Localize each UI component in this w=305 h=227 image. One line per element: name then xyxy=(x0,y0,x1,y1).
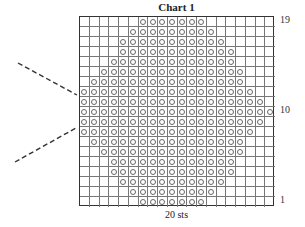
circle-stitch-icon xyxy=(150,49,156,55)
chart-cell xyxy=(207,177,217,187)
chart-cell xyxy=(256,17,266,27)
chart-cell xyxy=(226,27,236,37)
circle-stitch-icon xyxy=(198,119,204,125)
chart-cell xyxy=(256,177,266,187)
chart-cell xyxy=(100,127,110,137)
chart-cell xyxy=(197,67,207,77)
circle-stitch-icon xyxy=(159,29,165,35)
chart-cell xyxy=(168,177,178,187)
circle-stitch-icon xyxy=(101,139,107,145)
circle-stitch-icon xyxy=(169,39,175,45)
circle-stitch-icon xyxy=(150,199,156,205)
chart-cell xyxy=(226,47,236,57)
chart-cell xyxy=(139,167,149,177)
circle-stitch-icon xyxy=(140,149,146,155)
circle-stitch-icon xyxy=(130,49,136,55)
circle-stitch-icon xyxy=(228,169,234,175)
chart-cell xyxy=(139,77,149,87)
chart-cell xyxy=(187,17,197,27)
chart-cell xyxy=(148,27,158,37)
chart-cell xyxy=(139,197,149,207)
circle-stitch-icon xyxy=(237,89,243,95)
chart-cell xyxy=(168,37,178,47)
chart-cell xyxy=(256,47,266,57)
chart-cell xyxy=(246,37,256,47)
chart-cell xyxy=(187,67,197,77)
chart-cell xyxy=(256,37,266,47)
chart-cell xyxy=(158,47,168,57)
chart-cell xyxy=(90,177,100,187)
chart-cell xyxy=(148,47,158,57)
circle-stitch-icon xyxy=(81,109,87,115)
chart-cell xyxy=(119,57,129,67)
chart-cell xyxy=(197,37,207,47)
chart-cell xyxy=(80,137,90,147)
circle-stitch-icon xyxy=(120,179,126,185)
chart-cell xyxy=(265,127,275,137)
circle-stitch-icon xyxy=(198,199,204,205)
chart-cell xyxy=(256,167,266,177)
circle-stitch-icon xyxy=(218,139,224,145)
circle-stitch-icon xyxy=(179,149,185,155)
chart-cell xyxy=(246,197,256,207)
chart-cell xyxy=(246,87,256,97)
chart-cell xyxy=(217,147,227,157)
circle-stitch-icon xyxy=(237,99,243,105)
chart-cell xyxy=(197,47,207,57)
circle-stitch-icon xyxy=(228,129,234,135)
circle-stitch-icon xyxy=(189,109,195,115)
circle-stitch-icon xyxy=(169,129,175,135)
chart-cell xyxy=(139,187,149,197)
chart-cell xyxy=(246,177,256,187)
circle-stitch-icon xyxy=(120,39,126,45)
circle-stitch-icon xyxy=(159,139,165,145)
chart-cell xyxy=(187,187,197,197)
chart-cell xyxy=(90,117,100,127)
chart-cell xyxy=(178,17,188,27)
circle-stitch-icon xyxy=(169,149,175,155)
chart-cell xyxy=(100,157,110,167)
circle-stitch-icon xyxy=(208,149,214,155)
chart-cell xyxy=(168,147,178,157)
circle-stitch-icon xyxy=(179,89,185,95)
chart-cell xyxy=(265,187,275,197)
chart-cell xyxy=(168,67,178,77)
chart-cell xyxy=(226,127,236,137)
chart-cell xyxy=(119,97,129,107)
circle-stitch-icon xyxy=(140,129,146,135)
chart-cell xyxy=(256,117,266,127)
chart-cell xyxy=(148,67,158,77)
chart-cell xyxy=(80,107,90,117)
circle-stitch-icon xyxy=(159,59,165,65)
chart-cell xyxy=(197,197,207,207)
circle-stitch-icon xyxy=(179,79,185,85)
circle-stitch-icon xyxy=(218,169,224,175)
circle-stitch-icon xyxy=(169,189,175,195)
circle-stitch-icon xyxy=(130,129,136,135)
stitch-chart-grid xyxy=(79,16,274,206)
circle-stitch-icon xyxy=(169,199,175,205)
circle-stitch-icon xyxy=(130,119,136,125)
circle-stitch-icon xyxy=(198,129,204,135)
chart-cell xyxy=(187,97,197,107)
chart-cell xyxy=(129,97,139,107)
circle-stitch-icon xyxy=(111,89,117,95)
chart-cell xyxy=(178,77,188,87)
circle-stitch-icon xyxy=(169,109,175,115)
chart-cell xyxy=(246,47,256,57)
chart-cell xyxy=(168,137,178,147)
chart-cell xyxy=(139,147,149,157)
circle-stitch-icon xyxy=(208,169,214,175)
chart-cell xyxy=(187,127,197,137)
circle-stitch-icon xyxy=(159,119,165,125)
chart-cell xyxy=(236,177,246,187)
chart-cell xyxy=(246,137,256,147)
circle-stitch-icon xyxy=(228,79,234,85)
chart-cell xyxy=(100,97,110,107)
chart-cell xyxy=(236,147,246,157)
chart-cell xyxy=(236,27,246,37)
circle-stitch-icon xyxy=(120,69,126,75)
circle-stitch-icon xyxy=(120,99,126,105)
chart-cell xyxy=(226,197,236,207)
chart-cell xyxy=(256,57,266,67)
